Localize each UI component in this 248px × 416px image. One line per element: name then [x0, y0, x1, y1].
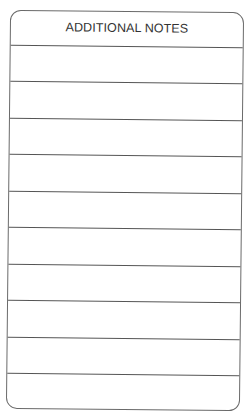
note-line — [9, 227, 241, 230]
notes-card: ADDITIONAL NOTES — [6, 10, 244, 411]
header-divider — [11, 45, 243, 48]
note-line — [7, 373, 239, 376]
note-line — [10, 118, 242, 121]
note-line — [8, 337, 240, 340]
note-line — [10, 81, 242, 84]
card-title: ADDITIONAL NOTES — [11, 20, 243, 36]
note-line — [8, 300, 240, 303]
note-line — [8, 264, 240, 267]
note-line — [9, 191, 241, 194]
note-line — [10, 154, 242, 157]
